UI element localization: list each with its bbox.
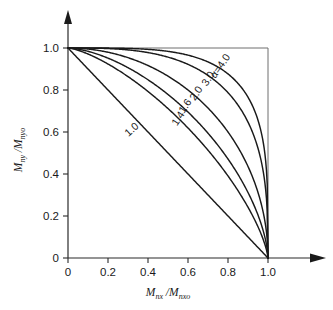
y-tick-label: 0.4 (43, 168, 60, 180)
x-tick-label: 0 (65, 266, 71, 278)
y-tick-label: 0.2 (43, 210, 59, 222)
x-tick-label: 0.6 (180, 266, 196, 278)
y-axis-arrow-icon (64, 10, 72, 24)
y-tick-label: 1.0 (43, 42, 59, 54)
x-axis-arrow-icon (310, 254, 326, 263)
y-title-sub2: nyo (18, 128, 27, 140)
x-title-sub2: nxo (179, 292, 191, 301)
svg-text:Mny /Mnyo: Mny /Mnyo (12, 128, 27, 173)
y-axis-ticks: 00.20.40.60.81.0 (43, 42, 68, 264)
svg-text:Mnx /Mnxo: Mnx /Mnxo (145, 286, 190, 301)
y-tick-label: 0 (53, 252, 59, 264)
x-tick-label: 0.2 (100, 266, 116, 278)
x-axis-ticks: 00.20.40.60.81.0 (65, 258, 276, 278)
chart-svg: 00.20.40.60.81.0 00.20.40.60.81.0 1.01.4… (0, 0, 333, 310)
x-tick-label: 1.0 (260, 266, 276, 278)
curve-label-alpha-4.0: α=4.0 (207, 51, 232, 80)
y-tick-label: 0.6 (43, 126, 59, 138)
curve-alpha-1.0 (68, 48, 268, 258)
curve-label-group: 1.01.41.62.03.0α=4.0 (122, 51, 233, 138)
curve-group (68, 48, 268, 258)
curve-label-alpha-2.0: 2.0 (187, 84, 205, 103)
y-tick-label: 0.8 (43, 84, 59, 96)
x-tick-label: 0.8 (220, 266, 236, 278)
x-tick-label: 0.4 (140, 266, 157, 278)
y-axis-title: Mny /Mnyo (12, 128, 27, 173)
curve-label-text: α=4.0 (207, 51, 232, 80)
curve-label-text: 2.0 (187, 84, 205, 103)
interaction-diagram-chart: 00.20.40.60.81.0 00.20.40.60.81.0 1.01.4… (0, 0, 333, 310)
x-axis-title: Mnx /Mnxo (145, 286, 190, 301)
